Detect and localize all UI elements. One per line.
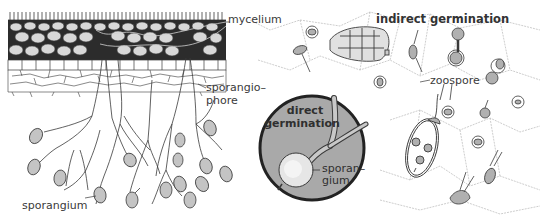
label-mycelium: mycelium — [228, 14, 282, 25]
label-inset-sporangium-1: sporan– — [322, 163, 365, 174]
indirect-sporangium — [330, 27, 389, 61]
label-inset-sporangium-2: gium — [322, 175, 350, 186]
label-direct: direct — [270, 105, 340, 117]
epidermis-hairs — [8, 12, 226, 20]
label-germination: germination — [262, 118, 342, 130]
label-sporangium: sporangium — [22, 200, 87, 211]
diagram-canvas: mycelium sporangio– phore sporangium ind… — [0, 0, 540, 224]
label-indirect-germination: indirect germination — [376, 14, 509, 25]
label-sporangiophore-2: phore — [206, 95, 238, 106]
lower-epidermis — [8, 60, 226, 70]
oval-sporangium — [400, 94, 445, 181]
label-sporangiophore-1: sporangio– — [206, 82, 266, 93]
sporangia — [26, 118, 235, 208]
label-zoospore: zoospore — [430, 75, 480, 86]
